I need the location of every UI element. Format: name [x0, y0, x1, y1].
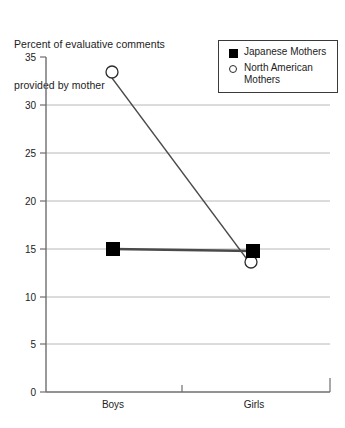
series-line-north-american [112, 78, 252, 266]
ytick-label-20: 20 [25, 196, 37, 207]
series-north-american-mothers [106, 66, 257, 268]
open-circle-icon [226, 63, 240, 75]
legend-label-north-american-mothers: North American Mothers [244, 62, 313, 86]
ytick-label-25: 25 [25, 148, 37, 159]
data-point-japanese-boys [106, 242, 120, 256]
legend-label-japanese-mothers: Japanese Mothers [244, 46, 326, 58]
chart-legend: Japanese Mothers North American Mothers [218, 40, 338, 93]
gridlines [46, 57, 330, 344]
xtick-label-girls: Girls [244, 399, 265, 410]
ytick-label-10: 10 [25, 292, 37, 303]
x-category-labels: Boys Girls [102, 399, 264, 410]
y-axis [40, 57, 46, 392]
filled-square-icon [226, 47, 240, 59]
ytick-label-0: 0 [30, 387, 36, 398]
y-tick-labels: 35 30 25 20 15 10 5 0 [25, 52, 37, 398]
data-point-japanese-girls [246, 244, 260, 258]
chart-figure: Percent of evaluative comments provided … [0, 0, 345, 428]
legend-item-north-american-mothers: North American Mothers [226, 62, 330, 86]
x-axis [46, 378, 330, 392]
legend-item-japanese-mothers: Japanese Mothers [226, 46, 330, 59]
ytick-label-15: 15 [25, 244, 37, 255]
ytick-label-5: 5 [30, 339, 36, 350]
data-point-north-american-boys [106, 66, 118, 78]
xtick-label-boys: Boys [102, 399, 124, 410]
series-japanese-mothers [106, 242, 260, 258]
ytick-label-30: 30 [25, 100, 37, 111]
ytick-label-35: 35 [25, 52, 37, 63]
